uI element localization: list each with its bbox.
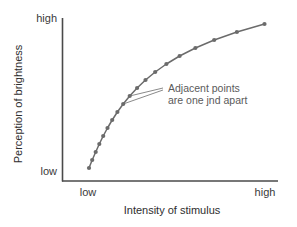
data-point [101,134,105,138]
data-point [94,150,98,154]
annotation-line-2: are one jnd apart [168,94,247,106]
x-axis-title: Intensity of stimulus [124,204,221,216]
y-axis-high-tick-label: high [36,12,57,24]
data-point [110,118,114,122]
data-point [235,30,239,34]
data-point [193,46,197,50]
data-point [115,110,119,114]
data-point [90,158,94,162]
data-point [178,54,182,58]
annotation-line-1: Adjacent points [168,82,240,94]
data-point [143,78,147,82]
data-point [87,166,91,170]
chart-figure: high low low high Perception of brightne… [0,0,297,227]
data-point [135,86,139,90]
y-axis-title: Perception of brightness [12,44,24,163]
y-axis-low-tick-label: low [40,165,57,177]
data-point [262,22,266,26]
brightness-perception-chart: high low low high Perception of brightne… [0,0,297,227]
x-axis-low-tick-label: low [80,186,97,198]
data-point [105,126,109,130]
data-point [153,70,157,74]
data-point [97,142,101,146]
data-point [212,38,216,42]
x-axis-high-tick-label: high [255,186,276,198]
data-point [164,62,168,66]
chart-background [0,0,297,227]
